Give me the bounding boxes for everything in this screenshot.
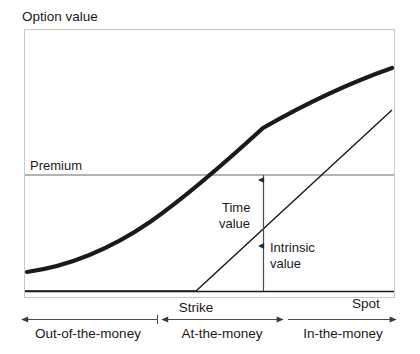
intrinsic-value-label-line1: Intrinsic xyxy=(270,240,315,255)
out-of-the-money-label: Out-of-the-money xyxy=(35,326,141,341)
intrinsic-value-line xyxy=(25,110,392,291)
y-axis-title: Option value xyxy=(22,9,98,24)
strike-label: Strike xyxy=(179,300,214,315)
in-the-money-label: In-the-money xyxy=(303,326,383,341)
x-axis-title: Spot xyxy=(352,296,380,311)
option-value-chart-figure: Option value Premium Time value Intrinsi… xyxy=(0,0,420,354)
at-the-money-label: At-the-money xyxy=(181,326,262,341)
time-value-label-line1: Time xyxy=(222,200,250,215)
premium-label: Premium xyxy=(30,158,82,173)
time-value-label-line2: value xyxy=(219,216,250,231)
chart-canvas: Option value Premium Time value Intrinsi… xyxy=(0,0,420,354)
intrinsic-value-label-line2: value xyxy=(270,256,301,271)
